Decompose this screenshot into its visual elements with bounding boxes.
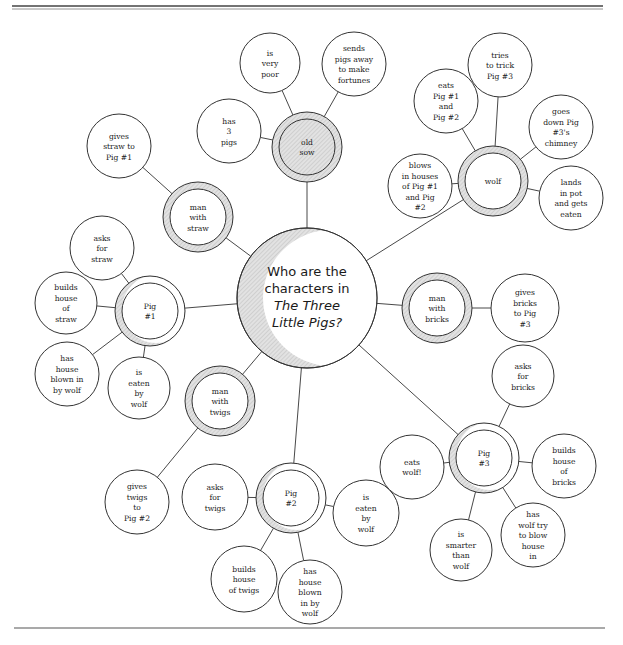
detail-node: buildshouseofbricks [532, 434, 596, 498]
node-label-line: Pig [285, 489, 298, 498]
node-label-line: than [452, 551, 469, 560]
character-node-wolf: wolf [458, 146, 528, 216]
character-node-old-sow: oldsow [272, 112, 342, 182]
connector-line [444, 462, 450, 463]
character-node-pig-3: Pig#3 [449, 422, 524, 493]
connector-line [143, 167, 172, 193]
node-label-line: chimney [545, 139, 578, 148]
node-label-line: bricks [552, 478, 576, 487]
node-label-line: for [517, 372, 528, 381]
node-label-line: to make [339, 65, 370, 74]
node-label-line: with [190, 213, 207, 222]
detail-node: givesstraw toPig #1 [87, 114, 151, 178]
connector-line [157, 428, 197, 477]
node-label-line: in houses [402, 172, 438, 181]
node-label-line: has [526, 510, 539, 519]
detail-node: sendspigs awayto makefortunes [322, 32, 386, 96]
node-label-line: with [429, 304, 446, 313]
detail-node: eatswolf! [380, 435, 444, 499]
node-label-line: is [267, 49, 273, 58]
detail-node: asksforstraw [70, 216, 134, 280]
node-label-line: in pot [560, 189, 582, 198]
node-label-line: in [529, 552, 536, 561]
detail-node: goesdown Pig#3'schimney [529, 95, 593, 159]
node-label-line: Pig #2 [433, 113, 459, 122]
node-label-line: gives [127, 482, 147, 491]
node-label-line: very [261, 59, 279, 68]
connector-line [243, 351, 262, 374]
node-label-line: blown [298, 588, 321, 597]
node-label-line: blown in [51, 375, 84, 384]
node-label-line: #1 [144, 312, 155, 321]
node-label-line: straw [55, 315, 77, 324]
character-bubble-map: Who are thecharacters inThe ThreeLittle … [0, 0, 623, 645]
node-label-line: The Three [274, 298, 340, 313]
node-label-line: fortunes [338, 76, 370, 85]
nodes: Who are thecharacters inThe ThreeLittle … [35, 32, 603, 624]
node-label-line: asks [94, 234, 111, 243]
node-label-line: gives [515, 288, 535, 297]
node-label-line: house [55, 294, 78, 303]
node-label-line: by wolf [53, 386, 82, 395]
node-label-line: to Pig [514, 309, 537, 318]
node-label-line: straw to [103, 142, 135, 151]
node-label-line: eaten [560, 210, 582, 219]
node-label-line: house [233, 575, 256, 584]
node-label-line: Who are the [267, 264, 347, 279]
node-label-line: Pig #3 [487, 72, 513, 81]
connector-line [359, 345, 458, 435]
node-label-line: Pig [478, 449, 491, 458]
node-label-line: straw [187, 224, 209, 233]
node-label-line: in by [301, 599, 321, 608]
connector-line [260, 137, 272, 140]
node-label-line: bricks [425, 315, 449, 324]
node-label-line: sends [343, 44, 365, 53]
node-label-line: wolf [302, 609, 320, 618]
connector-line [121, 273, 128, 283]
detail-node: blowsin housesof Pig #1and Pig#2 [388, 154, 452, 218]
node-label-line: down Pig [543, 118, 579, 127]
node-label-line: house [553, 457, 576, 466]
node-label-line: has [303, 567, 316, 576]
node-label-line: man [429, 294, 446, 303]
detail-node: haswolf tryto blowhousein [501, 503, 565, 567]
detail-node: hashouseblown inby wolf [35, 342, 99, 406]
detail-node: isverypoor [240, 33, 300, 93]
node-label-line: house [56, 365, 79, 374]
node-label-line: wolf [453, 562, 471, 571]
node-label-line: asks [515, 362, 532, 371]
character-node-pig-1: Pig#1 [115, 275, 190, 346]
connector-line [294, 368, 302, 463]
connector-line [462, 129, 475, 151]
node-label-line: goes [552, 107, 570, 116]
character-node-man-with-twigs: manwithtwigs [185, 366, 255, 436]
detail-node: buildshouseofstraw [35, 272, 97, 334]
detail-node: eatsPig #1andPig #2 [414, 69, 478, 133]
top-rule [12, 6, 603, 9]
node-label-line: wolf [131, 400, 149, 409]
node-label-line: 3 [227, 127, 232, 136]
node-label-line: #2 [285, 499, 296, 508]
detail-node: hashouseblownin bywolf [278, 560, 342, 624]
node-label-line: Pig #1 [433, 92, 459, 101]
connector-line [298, 532, 304, 560]
connector-line [377, 303, 402, 305]
node-label-line: builds [552, 446, 575, 455]
node-label-line: by [361, 514, 371, 523]
detail-node: triesto trickPig #3 [468, 33, 532, 97]
connector-line [499, 404, 510, 426]
node-label-line: blows [409, 161, 431, 170]
detail-node: issmarterthanwolf [430, 519, 492, 581]
character-node-man-with-straw: manwithstraw [163, 182, 233, 252]
connector-line [520, 147, 536, 159]
connector-line [527, 188, 540, 191]
node-label-line: #3 [519, 320, 530, 329]
node-label-line: eats [404, 458, 420, 467]
node-label-line: straw [91, 255, 113, 264]
node-label-line: poor [261, 70, 279, 79]
connector-line [503, 488, 516, 508]
node-label-line: is [458, 530, 464, 539]
node-label-line: wolf [485, 177, 503, 186]
node-label-line: #3's [552, 128, 569, 137]
node-label-line: Pig #1 [106, 153, 132, 162]
